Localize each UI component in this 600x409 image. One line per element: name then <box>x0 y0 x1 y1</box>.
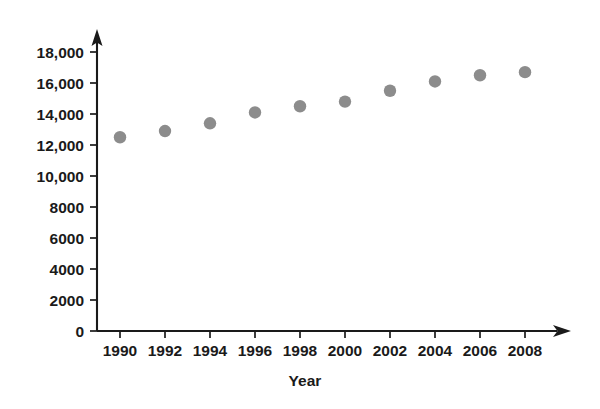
x-tick-label: 1994 <box>193 342 228 359</box>
x-tick-label: 2002 <box>373 342 407 359</box>
x-tick-label: 1996 <box>238 342 273 359</box>
chart-canvas: 0200040006000800010,00012,00014,00016,00… <box>0 0 600 409</box>
y-tick-label: 18,000 <box>37 44 84 61</box>
y-tick-label: 14,000 <box>37 106 84 123</box>
x-tick-label: 2006 <box>463 342 498 359</box>
data-point <box>249 106 261 118</box>
data-point <box>294 100 306 112</box>
y-tick-label: 8000 <box>50 199 84 216</box>
y-tick-label: 10,000 <box>37 168 84 185</box>
data-point <box>114 131 126 143</box>
x-tick-label: 2000 <box>328 342 362 359</box>
data-point <box>159 125 171 137</box>
data-point <box>204 117 216 129</box>
data-point <box>429 75 441 87</box>
x-axis-title: Year <box>289 372 322 389</box>
y-tick-label: 6000 <box>50 230 84 247</box>
scatter-chart: 0200040006000800010,00012,00014,00016,00… <box>0 0 600 409</box>
y-tick-label: 2000 <box>50 292 84 309</box>
y-tick-label: 4000 <box>50 261 84 278</box>
y-tick-label: 12,000 <box>37 137 84 154</box>
data-point <box>384 85 396 97</box>
y-tick-label: 0 <box>75 323 84 340</box>
x-tick-label: 2008 <box>508 342 543 359</box>
x-tick-label: 2004 <box>418 342 453 359</box>
data-point <box>339 95 351 107</box>
data-point <box>474 69 486 81</box>
y-tick-label: 16,000 <box>37 75 84 92</box>
x-tick-label: 1990 <box>103 342 137 359</box>
data-point <box>519 66 531 78</box>
x-tick-label: 1992 <box>148 342 182 359</box>
x-tick-label: 1998 <box>283 342 318 359</box>
